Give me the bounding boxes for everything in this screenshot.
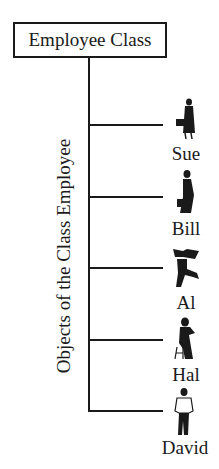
branch-line-al <box>88 267 163 269</box>
object-name-david: David <box>150 437 219 459</box>
object-name-hal: Hal <box>156 364 216 386</box>
object-name-sue: Sue <box>156 143 216 165</box>
employee-class-box: Employee Class <box>13 22 167 58</box>
branch-line-bill <box>88 196 163 198</box>
object-name-al: Al <box>156 292 216 314</box>
sue-figure-icon <box>166 97 206 141</box>
hal-figure-icon <box>166 317 206 361</box>
branch-line-david <box>88 410 163 412</box>
david-figure-icon <box>164 387 204 437</box>
branch-line-sue <box>88 124 163 126</box>
class-box-label: Employee Class <box>29 29 152 51</box>
branch-line-hal <box>88 339 163 341</box>
hierarchy-trunk-line <box>88 56 90 412</box>
bill-figure-icon <box>166 169 206 215</box>
al-figure-icon <box>166 247 206 289</box>
object-name-bill: Bill <box>156 218 216 240</box>
